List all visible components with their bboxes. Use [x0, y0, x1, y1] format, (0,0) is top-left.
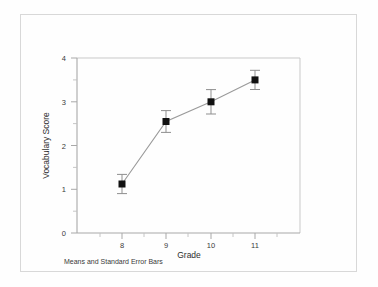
axis-x-major-ticks	[122, 233, 255, 239]
axis-x-minor-ticks	[100, 233, 277, 237]
data-point-grade-8	[119, 181, 126, 188]
x-tick-label-10: 10	[207, 241, 215, 250]
axis-y-major-ticks	[71, 58, 77, 233]
series-polyline	[122, 80, 255, 184]
y-tick-label-1: 1	[62, 185, 66, 194]
figure-caption: Means and Standard Error Bars	[64, 258, 163, 265]
data-point-grade-9	[163, 118, 170, 125]
chart-figure: 0 1 2 3 4 8	[0, 0, 378, 287]
data-point-markers	[119, 76, 259, 187]
x-tick-label-9: 9	[164, 241, 168, 250]
plot-axes	[77, 58, 300, 233]
error-bars	[117, 70, 260, 193]
vocabulary-score-line-chart: 0 1 2 3 4 8	[0, 0, 378, 287]
axis-x-tick-labels: 8 9 10 11	[120, 241, 259, 250]
figure-page: 0 1 2 3 4 8	[0, 0, 378, 287]
axis-y-tick-labels: 0 1 2 3 4	[62, 54, 66, 238]
y-tick-label-2: 2	[62, 142, 66, 151]
x-tick-label-8: 8	[120, 241, 124, 250]
y-axis-title: Vocabulary Score	[41, 112, 51, 179]
x-axis-title: Grade	[177, 250, 201, 260]
y-tick-label-3: 3	[62, 98, 66, 107]
data-series-line	[122, 80, 255, 184]
data-point-grade-10	[208, 98, 215, 105]
x-tick-label-11: 11	[251, 241, 259, 250]
data-point-grade-11	[252, 76, 259, 83]
y-tick-label-0: 0	[62, 229, 66, 238]
y-tick-label-4: 4	[62, 54, 66, 63]
